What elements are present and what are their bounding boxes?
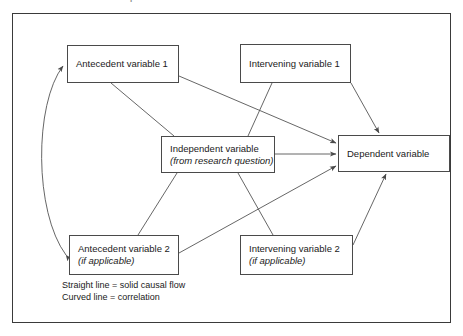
node-intervening-variable-1[interactable]: Intervening variable 1 bbox=[240, 44, 351, 83]
node-dependent-variable[interactable]: Dependent variable bbox=[338, 135, 450, 172]
figure-caption: FIGURE 10.1 Variable relationships bbox=[0, 0, 463, 9]
node-intervening-variable-1-label: Intervening variable 1 bbox=[249, 58, 342, 70]
figure-caption-text: FIGURE 10.1 Variable relationships bbox=[0, 0, 463, 2]
node-antecedent-variable-2-sublabel: (if applicable) bbox=[78, 255, 170, 267]
node-independent-variable-label: Independent variable bbox=[170, 143, 266, 155]
node-independent-variable[interactable]: Independent variable (from research ques… bbox=[161, 136, 275, 173]
diagram-legend: Straight line = solid causal flow Curved… bbox=[62, 280, 185, 303]
node-intervening-variable-2-label: Intervening variable 2 bbox=[249, 243, 344, 255]
legend-straight-line: Straight line = solid causal flow bbox=[62, 280, 185, 292]
figure-root: FIGURE 10.1 Variable relationships bbox=[0, 0, 463, 336]
legend-curved-line: Curved line = correlation bbox=[62, 292, 185, 304]
node-independent-variable-sublabel: (from research question) bbox=[170, 155, 266, 167]
node-antecedent-variable-1-label: Antecedent variable 1 bbox=[76, 58, 170, 70]
node-intervening-variable-2[interactable]: Intervening variable 2 (if applicable) bbox=[240, 235, 353, 275]
node-antecedent-variable-2[interactable]: Antecedent variable 2 (if applicable) bbox=[69, 235, 179, 275]
node-dependent-variable-label: Dependent variable bbox=[347, 148, 441, 160]
node-antecedent-variable-1[interactable]: Antecedent variable 1 bbox=[67, 45, 179, 83]
node-intervening-variable-2-sublabel: (if applicable) bbox=[249, 255, 344, 267]
node-antecedent-variable-2-label: Antecedent variable 2 bbox=[78, 243, 170, 255]
